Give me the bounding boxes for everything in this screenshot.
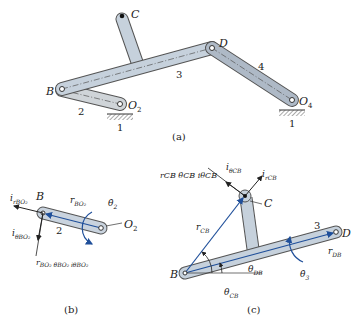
label-link-2: 2 bbox=[78, 106, 84, 117]
panel-c: C B D 3 rCB rDB θDB θCB θ̇3 irCB iθCB rC… bbox=[160, 162, 351, 315]
joint-b-fbd-c bbox=[183, 271, 187, 275]
joint-d-fbd bbox=[334, 230, 339, 235]
label-i-theta: iθBO₂ bbox=[12, 228, 31, 240]
label-ground-1-left: 1 bbox=[117, 122, 123, 133]
label-b-fbd-c: B bbox=[169, 268, 178, 281]
label-theta-db: θDB bbox=[248, 264, 263, 276]
label-link-4: 4 bbox=[258, 61, 264, 72]
label-i-thetacb: iθCB bbox=[226, 162, 242, 174]
label-ground-1-right: 1 bbox=[289, 118, 295, 129]
joint-o2-fbd bbox=[99, 226, 104, 231]
label-tangential-b: rBO₂ θ̇BO₂ iθBO₂ bbox=[36, 258, 89, 268]
label-i-rcb: irCB bbox=[262, 169, 277, 181]
joint-c-fbd bbox=[243, 194, 247, 198]
label-c: C bbox=[131, 8, 140, 21]
caption-a: (a) bbox=[172, 131, 186, 142]
joint-d bbox=[210, 46, 215, 51]
label-theta3-dot: θ̇3 bbox=[300, 269, 309, 281]
panel-a: C B D O2 O4 2 3 4 1 1 (a) bbox=[45, 8, 313, 142]
caption-c: (c) bbox=[247, 304, 261, 315]
panel-b: B O2 2 irBO₂ iθBO₂ rBO₂ θ̇2 rBO₂ θ̇BO₂ i… bbox=[10, 190, 138, 315]
mechanism-diagram: C B D O2 O4 2 3 4 1 1 (a) B O2 2 irBO₂ i… bbox=[0, 0, 359, 322]
label-link-3: 3 bbox=[176, 69, 182, 80]
ground-o4 bbox=[279, 110, 305, 116]
caption-b: (b) bbox=[64, 304, 78, 315]
label-r-db: rDB bbox=[328, 246, 342, 258]
label-c-fbd: C bbox=[264, 197, 273, 210]
label-link-2-fbd: 2 bbox=[56, 225, 62, 236]
label-b: B bbox=[45, 85, 54, 98]
ground-o2 bbox=[107, 114, 133, 120]
label-o2: O2 bbox=[128, 99, 142, 114]
label-o2-fbd: O2 bbox=[124, 218, 138, 233]
label-r-cb: rCB bbox=[196, 222, 210, 234]
label-o4: O4 bbox=[299, 95, 313, 110]
diagram-canvas: C B D O2 O4 2 3 4 1 1 (a) B O2 2 irBO₂ i… bbox=[0, 0, 359, 322]
joint-c bbox=[120, 14, 125, 19]
label-b-fbd: B bbox=[35, 190, 44, 203]
label-r-bo2: rBO₂ bbox=[70, 195, 87, 207]
joint-b bbox=[60, 87, 65, 92]
label-tangential-c: rCB θ̇CB iθCB bbox=[160, 171, 217, 180]
label-theta-cb: θCB bbox=[224, 287, 239, 299]
label-i-r: irBO₂ bbox=[10, 193, 28, 205]
leader-o2 bbox=[106, 223, 122, 226]
joint-o2 bbox=[118, 102, 123, 107]
label-theta2-dot: θ̇2 bbox=[108, 198, 117, 210]
vector-r-db bbox=[185, 233, 333, 273]
vector-tangential bbox=[36, 213, 43, 256]
label-d: D bbox=[218, 37, 228, 50]
vector-i-rcb bbox=[245, 176, 262, 196]
label-link-3-fbd: 3 bbox=[314, 220, 320, 231]
joint-o4 bbox=[290, 98, 295, 103]
label-d-fbd: D bbox=[341, 227, 351, 240]
